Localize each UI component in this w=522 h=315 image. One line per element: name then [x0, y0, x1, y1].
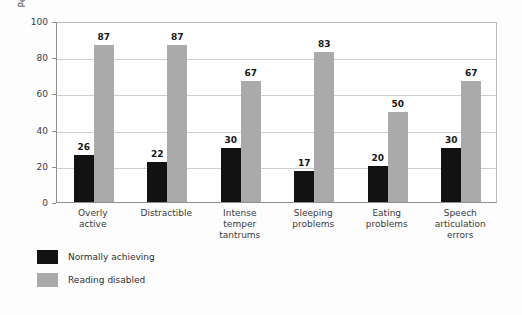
bar-reading-disabled: [314, 52, 334, 202]
bar-reading-disabled: [94, 45, 114, 202]
gridline: [57, 132, 496, 133]
bar-value-label: 87: [89, 32, 119, 42]
legend-label: Reading disabled: [68, 275, 145, 285]
bar-value-label: 50: [383, 99, 413, 109]
bar-reading-disabled: [241, 81, 261, 202]
bar-reading-disabled: [167, 45, 187, 202]
bar-value-label: 83: [309, 39, 339, 49]
bar-group: 2050: [368, 23, 408, 202]
y-tick-label: 100: [18, 17, 48, 27]
bar-normally-achieving: [368, 166, 388, 202]
y-tick-label: 40: [18, 126, 48, 136]
bar-value-label: 87: [162, 32, 192, 42]
gridline: [57, 59, 496, 60]
bar-reading-disabled: [461, 81, 481, 202]
x-axis-label: Speecharticulationerrors: [412, 208, 508, 241]
y-tick-mark: [52, 203, 56, 204]
bar-normally-achieving: [441, 148, 461, 202]
bar-chart: Percent showing behavior 020406080100 26…: [0, 0, 522, 315]
legend-swatch: [37, 273, 58, 287]
gridline: [57, 95, 496, 96]
bar-normally-achieving: [294, 171, 314, 202]
y-tick-label: 60: [18, 89, 48, 99]
bar-value-label: 67: [236, 68, 266, 78]
legend: Normally achievingReading disabled: [37, 250, 155, 296]
y-tick-label: 80: [18, 53, 48, 63]
bar-group: 1783: [294, 23, 334, 202]
bar-group: 2687: [74, 23, 114, 202]
legend-item[interactable]: Normally achieving: [37, 250, 155, 264]
legend-item[interactable]: Reading disabled: [37, 273, 155, 287]
gridline: [57, 168, 496, 169]
bar-normally-achieving: [74, 155, 94, 202]
plot-area: 268722873067178320503067: [56, 22, 497, 203]
bar-normally-achieving: [147, 162, 167, 202]
legend-label: Normally achieving: [68, 252, 155, 262]
bar-group: 2287: [147, 23, 187, 202]
y-tick-label: 20: [18, 162, 48, 172]
bar-group: 3067: [441, 23, 481, 202]
bar-group: 3067: [221, 23, 261, 202]
y-tick-label: 0: [18, 198, 48, 208]
bar-reading-disabled: [388, 112, 408, 203]
bar-value-label: 67: [456, 68, 486, 78]
bar-normally-achieving: [221, 148, 241, 202]
legend-swatch: [37, 250, 58, 264]
